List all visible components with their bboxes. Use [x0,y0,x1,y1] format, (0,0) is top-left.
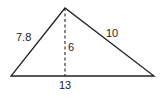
triangle-diagram: 7.8 10 6 13 [0,0,162,97]
base-label: 13 [59,79,71,91]
height-label: 6 [68,41,74,53]
triangle-outline [11,8,154,76]
left-side-label: 7.8 [16,31,31,43]
right-side-label: 10 [106,27,118,39]
